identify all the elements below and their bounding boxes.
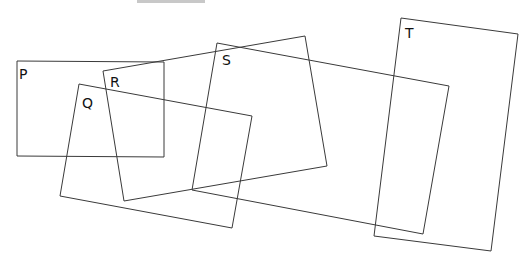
rectangle-label: T <box>404 25 414 41</box>
cut-off-title <box>137 0 205 3</box>
rectangle-label: Q <box>82 95 93 111</box>
rectangle-r: R <box>103 36 327 201</box>
rectangle-s: S <box>192 43 449 234</box>
rectangle-label: P <box>19 66 27 82</box>
rectangle-outline <box>374 18 518 251</box>
diagram-canvas: PQRST <box>0 0 532 264</box>
overlapping-rectangles-diagram: PQRST <box>0 0 532 264</box>
rectangle-outline <box>192 43 449 234</box>
rectangle-label: S <box>222 52 231 68</box>
rectangle-outline <box>103 36 327 201</box>
rectangle-label: R <box>110 74 120 90</box>
rectangle-t: T <box>374 18 518 251</box>
